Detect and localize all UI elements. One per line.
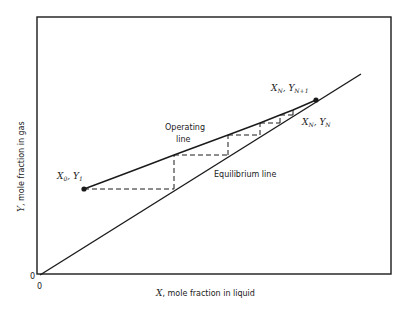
x-axis-label: X, mole fraction in liquid <box>155 288 255 298</box>
start-point-label: X0, Y1 <box>56 171 83 182</box>
operating-line-label: Operating <box>165 123 205 132</box>
plot-frame <box>37 17 391 274</box>
end-point-label: XN, YN+1 <box>270 83 308 94</box>
equilibrium-line <box>40 74 361 275</box>
y-axis-label: Y, mole fraction in gas <box>16 121 26 212</box>
absorption-diagram: X0, Y1 XN, YN+1 XN, YN Operating line Eq… <box>0 0 409 309</box>
equilibrium-line-label: Equilibrium line <box>214 170 276 179</box>
origin-y-label: 0 <box>30 272 35 281</box>
operating-line-label-2: line <box>176 135 191 144</box>
operating-line <box>84 100 316 189</box>
last-stage-label: XN, YN <box>301 117 331 128</box>
start-point <box>81 186 86 191</box>
origin-x-label: 0 <box>37 282 42 291</box>
end-point <box>313 97 318 102</box>
